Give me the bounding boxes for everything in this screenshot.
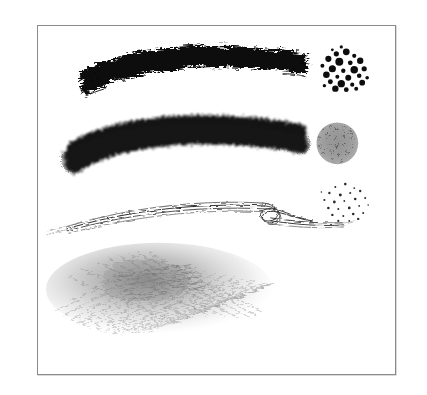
plate-border: [37, 25, 396, 375]
sample-region-bristle-stroke: [79, 49, 307, 102]
sample-region-pencil-smudge: [105, 244, 333, 339]
sample-region-rake-stroke: [65, 189, 349, 231]
sample-region-coarse-spatter: [320, 44, 372, 96]
sample-region-airbrush-stroke: [63, 118, 306, 178]
page-root: [0, 0, 427, 395]
sample-region-fine-spatter: [320, 181, 374, 227]
sample-region-noise-disc: [317, 122, 361, 166]
